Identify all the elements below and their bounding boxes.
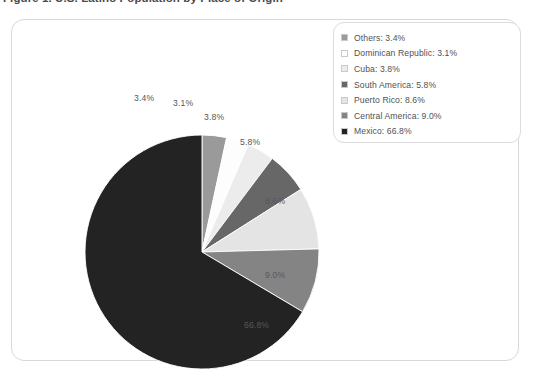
legend-item[interactable]: Others: 3.4% <box>341 30 520 46</box>
legend-swatch-icon <box>341 50 348 57</box>
chart-legend: Others: 3.4%Dominican Republic: 3.1%Cuba… <box>333 22 521 143</box>
slice-label-others: 3.4% <box>134 93 154 103</box>
pie-chart <box>84 134 320 370</box>
legend-swatch-icon <box>341 65 348 72</box>
legend-swatch-icon <box>341 128 348 135</box>
legend-swatch-icon <box>341 97 348 104</box>
slice-label-south-america: 5.8% <box>240 137 260 147</box>
slice-label-mexico: 66.8% <box>244 320 269 330</box>
legend-item[interactable]: Dominican Republic: 3.1% <box>341 46 520 62</box>
legend-item[interactable]: Mexico: 66.8% <box>341 124 520 140</box>
slice-label-dominican-republic: 3.1% <box>173 98 193 108</box>
pie-slices <box>85 135 319 369</box>
legend-swatch-icon <box>341 81 348 88</box>
legend-swatch-icon <box>341 112 348 119</box>
legend-item[interactable]: South America: 5.8% <box>341 77 520 93</box>
legend-item-label: Others: 3.4% <box>354 33 405 43</box>
slice-label-cuba: 3.8% <box>204 112 224 122</box>
legend-item-label: Mexico: 66.8% <box>354 126 412 136</box>
legend-item-label: Puerto Rico: 8.6% <box>354 95 425 105</box>
slice-label-puerto-rico: 8.6% <box>265 196 285 206</box>
legend-item-label: Cuba: 3.8% <box>354 64 400 74</box>
legend-item-label: South America: 5.8% <box>354 80 436 90</box>
legend-item-label: Central America: 9.0% <box>354 111 442 121</box>
legend-item[interactable]: Cuba: 3.8% <box>341 61 520 77</box>
legend-swatch-icon <box>341 34 348 41</box>
legend-item[interactable]: Puerto Rico: 8.6% <box>341 92 520 108</box>
figure-title: Figure 1. U.S. Latino Population by Plac… <box>3 0 283 4</box>
legend-item-label: Dominican Republic: 3.1% <box>354 48 457 58</box>
legend-item[interactable]: Central America: 9.0% <box>341 108 520 124</box>
pie-svg <box>84 134 320 370</box>
slice-label-central-america: 9.0% <box>265 270 285 280</box>
